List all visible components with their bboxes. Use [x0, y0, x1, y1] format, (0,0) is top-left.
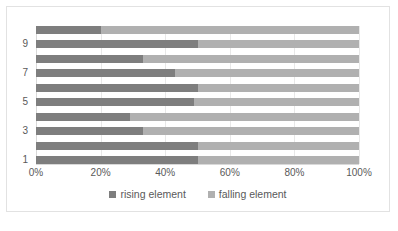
x-axis-tick-label: 100%: [346, 168, 372, 178]
x-axis-tick-label: 20%: [91, 168, 111, 178]
bar-segment-rising[interactable]: [36, 55, 143, 63]
bar-row[interactable]: [36, 55, 359, 63]
bar-segment-falling[interactable]: [143, 55, 359, 63]
bar-segment-rising[interactable]: [36, 26, 101, 34]
bar-series-container: [36, 26, 359, 164]
bar-segment-falling[interactable]: [198, 84, 360, 92]
bar-segment-rising[interactable]: [36, 142, 198, 150]
bar-row[interactable]: [36, 142, 359, 150]
bar-row[interactable]: [36, 69, 359, 77]
bar-row[interactable]: [36, 84, 359, 92]
legend-item[interactable]: rising element: [109, 189, 185, 200]
x-axis-tick-label: 80%: [284, 168, 304, 178]
bar-segment-falling[interactable]: [198, 40, 360, 48]
bar-segment-rising[interactable]: [36, 156, 198, 164]
bar-segment-falling[interactable]: [175, 69, 359, 77]
bar-segment-rising[interactable]: [36, 113, 130, 121]
bar-segment-falling[interactable]: [101, 26, 359, 34]
bar-segment-falling[interactable]: [130, 113, 359, 121]
bar-segment-rising[interactable]: [36, 40, 198, 48]
bar-segment-falling[interactable]: [194, 98, 359, 106]
bar-row[interactable]: [36, 156, 359, 164]
bar-row[interactable]: [36, 40, 359, 48]
x-axis-line: [36, 164, 359, 165]
y-axis: 13579: [7, 26, 32, 164]
gridline: [359, 26, 360, 164]
bar-segment-falling[interactable]: [143, 127, 359, 135]
y-axis-tick-label: 1: [22, 155, 28, 165]
legend-label: falling element: [219, 189, 287, 200]
chart-legend: rising elementfalling element: [7, 189, 389, 200]
bar-row[interactable]: [36, 113, 359, 121]
legend-item[interactable]: falling element: [208, 189, 287, 200]
y-axis-tick-label: 9: [22, 39, 28, 49]
plot-area: [36, 26, 359, 164]
y-axis-tick-label: 7: [22, 68, 28, 78]
bar-row[interactable]: [36, 127, 359, 135]
x-axis-tick-label: 60%: [220, 168, 240, 178]
bar-row[interactable]: [36, 26, 359, 34]
legend-swatch-icon: [109, 191, 116, 198]
bar-row[interactable]: [36, 98, 359, 106]
bar-segment-rising[interactable]: [36, 127, 143, 135]
x-axis-tick-label: 0%: [29, 168, 43, 178]
y-axis-tick-label: 3: [22, 126, 28, 136]
legend-swatch-icon: [208, 191, 215, 198]
bar-segment-rising[interactable]: [36, 98, 194, 106]
bar-segment-falling[interactable]: [198, 142, 360, 150]
bar-segment-falling[interactable]: [198, 156, 360, 164]
chart-frame: 13579 0%20%40%60%80%100% rising elementf…: [6, 6, 390, 212]
x-axis-tick-label: 40%: [155, 168, 175, 178]
bar-segment-rising[interactable]: [36, 69, 175, 77]
x-axis: 0%20%40%60%80%100%: [36, 168, 359, 182]
legend-label: rising element: [120, 189, 185, 200]
bar-segment-rising[interactable]: [36, 84, 198, 92]
y-axis-tick-label: 5: [22, 97, 28, 107]
